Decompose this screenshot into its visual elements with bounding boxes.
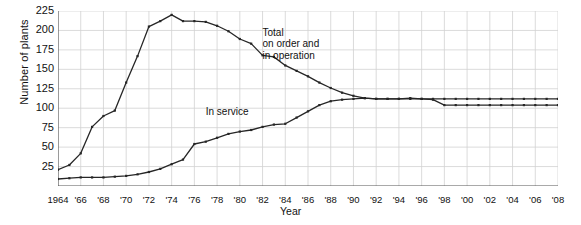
data-point xyxy=(341,99,343,101)
data-point xyxy=(386,98,388,100)
data-point xyxy=(477,104,479,106)
x-tick-label: '98 xyxy=(438,194,450,205)
y-tick-label: 50 xyxy=(24,141,54,152)
data-point xyxy=(102,115,104,117)
data-point xyxy=(318,104,320,106)
data-point xyxy=(409,97,411,99)
data-point xyxy=(421,98,423,100)
data-point xyxy=(307,75,309,77)
x-tick-label: '76 xyxy=(188,194,200,205)
data-point xyxy=(250,129,252,131)
data-point xyxy=(466,104,468,106)
data-point xyxy=(557,98,558,100)
data-point xyxy=(102,176,104,178)
data-point xyxy=(466,98,468,100)
x-tick-label: '00 xyxy=(461,194,473,205)
data-point xyxy=(171,14,173,16)
data-point xyxy=(489,98,491,100)
x-tick-label: '02 xyxy=(484,194,496,205)
data-point xyxy=(250,43,252,45)
data-point xyxy=(159,168,161,170)
nuclear-plants-line-chart: Number of plants 22520017515012510075502… xyxy=(0,0,581,225)
data-point xyxy=(193,20,195,22)
x-tick-label: '70 xyxy=(120,194,132,205)
data-point xyxy=(443,104,445,106)
data-point xyxy=(455,98,457,100)
x-tick-label: '92 xyxy=(370,194,382,205)
data-point xyxy=(284,123,286,125)
data-point xyxy=(68,164,70,166)
data-point xyxy=(273,123,275,125)
x-tick-label: 1964 xyxy=(47,194,68,205)
data-point xyxy=(148,171,150,173)
x-tick-label: '90 xyxy=(347,194,359,205)
data-point xyxy=(455,104,457,106)
data-point xyxy=(364,97,366,99)
data-point xyxy=(523,104,525,106)
data-point xyxy=(534,104,536,106)
data-point xyxy=(534,98,536,100)
annotation-line: in operation xyxy=(263,50,320,62)
data-point xyxy=(182,158,184,160)
data-point xyxy=(557,104,558,106)
data-point xyxy=(239,38,241,40)
data-point xyxy=(114,109,116,111)
x-tick-label: '66 xyxy=(75,194,87,205)
y-tick-label: 200 xyxy=(24,24,54,35)
x-axis-label: Year xyxy=(280,205,301,217)
data-point xyxy=(500,104,502,106)
annotation-line: Total xyxy=(263,27,320,39)
data-point xyxy=(136,173,138,175)
data-point xyxy=(114,176,116,178)
annotation-line: on order and xyxy=(263,38,320,50)
x-tick-label: '80 xyxy=(234,194,246,205)
data-point xyxy=(477,98,479,100)
x-tick-label: '78 xyxy=(211,194,223,205)
x-tick-label: '74 xyxy=(165,194,177,205)
data-point xyxy=(352,95,354,97)
y-tick-label: 150 xyxy=(24,63,54,74)
data-point xyxy=(523,98,525,100)
y-tick-label: 25 xyxy=(24,161,54,172)
data-point xyxy=(182,20,184,22)
data-point xyxy=(193,143,195,145)
data-point xyxy=(341,92,343,94)
x-tick-label: '84 xyxy=(279,194,291,205)
data-point xyxy=(216,25,218,27)
x-tick-label: '72 xyxy=(143,194,155,205)
data-point xyxy=(239,130,241,132)
data-point xyxy=(205,21,207,23)
data-point xyxy=(500,98,502,100)
data-point xyxy=(125,81,127,83)
y-tick-label: 125 xyxy=(24,83,54,94)
data-point xyxy=(80,176,82,178)
y-tick-label: 100 xyxy=(24,102,54,113)
data-point xyxy=(58,178,59,180)
y-tick-label: 75 xyxy=(24,122,54,133)
x-tick-label: '82 xyxy=(256,194,268,205)
x-tick-label: '06 xyxy=(529,194,541,205)
data-point xyxy=(432,99,434,101)
x-tick-label: '96 xyxy=(415,194,427,205)
x-tick-label: '88 xyxy=(325,194,337,205)
x-tick-label: '94 xyxy=(393,194,405,205)
data-point xyxy=(398,98,400,100)
data-point xyxy=(261,126,263,128)
y-tick-label: 175 xyxy=(24,44,54,55)
data-point xyxy=(352,98,354,100)
data-point xyxy=(91,126,93,128)
data-point xyxy=(80,152,82,154)
total-label: Totalon order andin operation xyxy=(263,27,320,62)
data-point xyxy=(318,81,320,83)
data-point xyxy=(443,98,445,100)
annotation-line: In service xyxy=(206,106,249,118)
x-tick-label: '04 xyxy=(506,194,518,205)
data-point xyxy=(511,98,513,100)
data-point xyxy=(375,98,377,100)
data-point xyxy=(227,30,229,32)
data-point xyxy=(330,87,332,89)
data-point xyxy=(91,176,93,178)
data-point xyxy=(171,163,173,165)
data-point xyxy=(148,25,150,27)
data-point xyxy=(216,137,218,139)
